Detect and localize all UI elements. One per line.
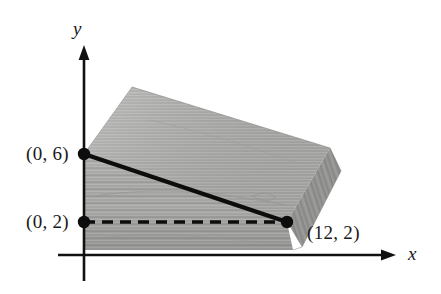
point-label-0-6: (0, 6)	[26, 143, 69, 165]
point-label-0-2: (0, 2)	[26, 211, 69, 233]
point-label-12-2: (12, 2)	[307, 222, 360, 244]
y-axis-label: y	[73, 18, 81, 40]
point-marker-12-2	[281, 216, 293, 228]
point-marker-0-2	[78, 216, 90, 228]
figure-canvas: (0, 6) (0, 2) (12, 2) y x	[0, 0, 441, 294]
y-axis-arrowhead	[79, 45, 90, 60]
x-axis-arrowhead	[381, 250, 396, 261]
x-axis-label: x	[408, 243, 416, 265]
board-front-bottom-edge	[293, 247, 302, 250]
point-marker-0-6	[78, 148, 90, 160]
